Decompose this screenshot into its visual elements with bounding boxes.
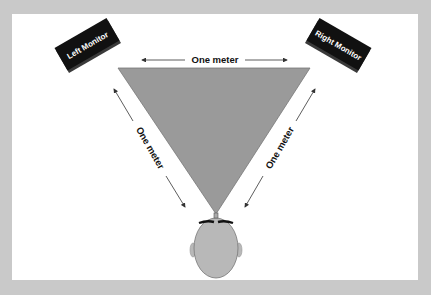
top-distance-indicator: One meter [142, 54, 287, 65]
listener-head [190, 213, 242, 278]
right-monitor: Right Monitor [305, 18, 371, 73]
left-monitor: Left Monitor [55, 18, 121, 73]
nose-icon [214, 213, 218, 218]
stereo-triangle-diagram: Left Monitor Right Monitor One meter One… [0, 0, 431, 295]
top-distance-label: One meter [192, 54, 239, 65]
